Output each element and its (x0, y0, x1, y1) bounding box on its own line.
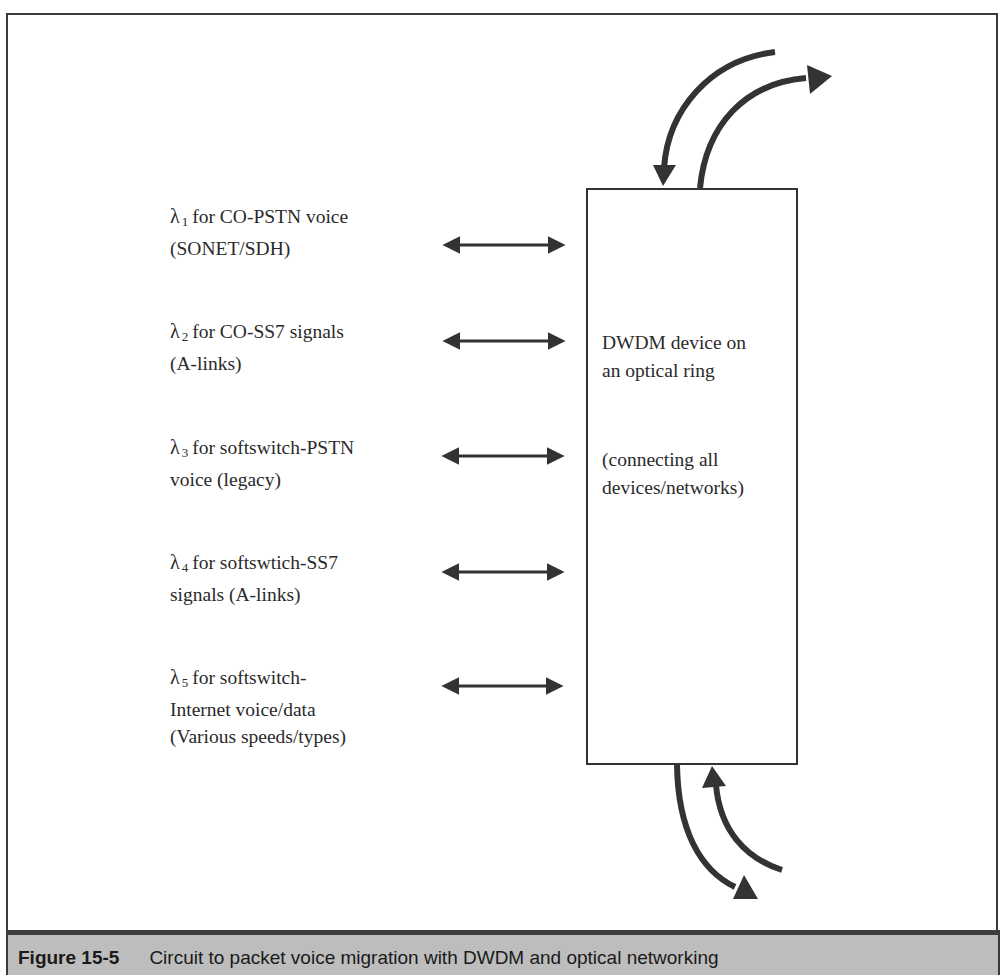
caption-description: Circuit to packet voice migration with D… (149, 947, 718, 968)
ring-in-arrow-top (653, 52, 775, 186)
ring-in-arrow-bottom (702, 766, 782, 870)
figure-number: Figure 15-5 (18, 947, 119, 968)
caption-text: Figure 15-5Circuit to packet voice migra… (18, 947, 719, 969)
figure-caption: Figure 15-5Circuit to packet voice migra… (6, 935, 1000, 975)
ring-out-arrow-top (700, 65, 832, 188)
